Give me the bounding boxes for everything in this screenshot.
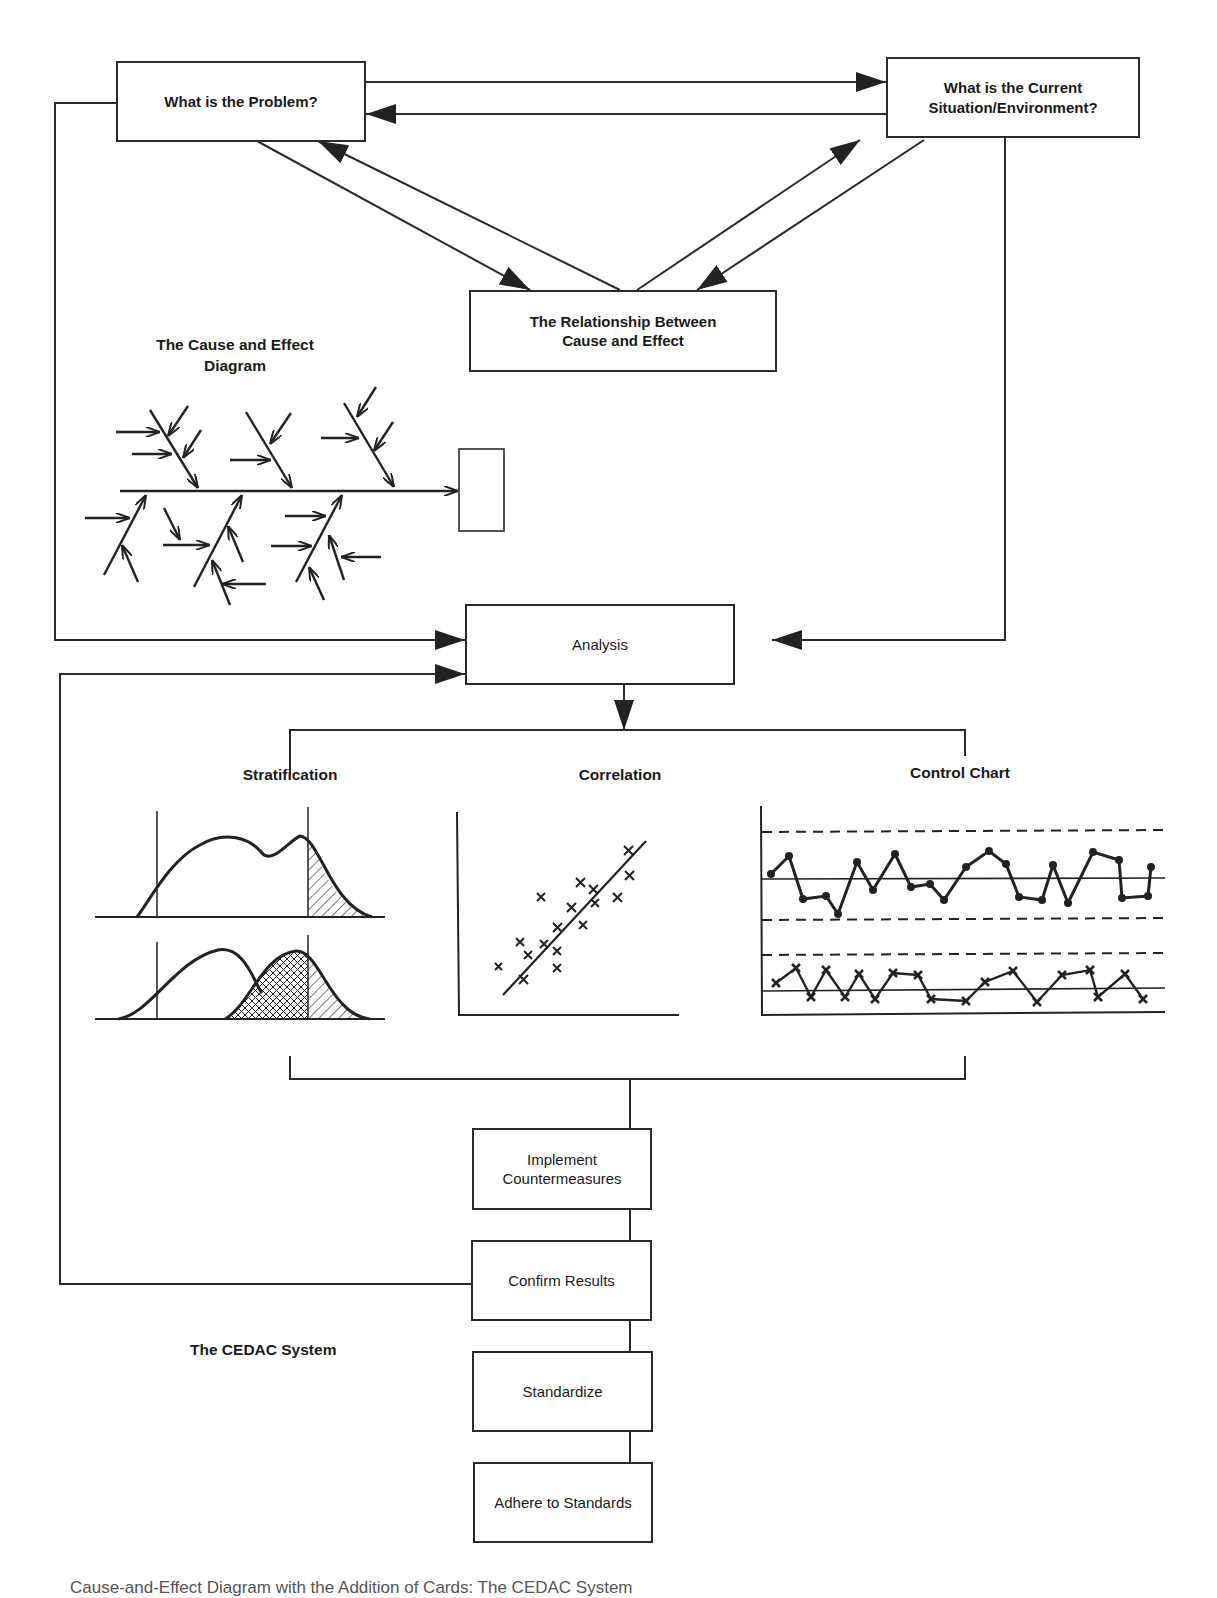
- analysis-text: Analysis: [572, 635, 628, 655]
- correlation-label: Correlation: [530, 765, 710, 786]
- relationship-line2: Cause and Effect: [530, 331, 717, 351]
- current-situation-box: What is the Current Situation/Environmen…: [886, 57, 1140, 138]
- standardize-text: Standardize: [522, 1382, 602, 1402]
- problem-text: What is the Problem?: [164, 92, 317, 112]
- control-chart: [761, 806, 1165, 1015]
- cause-effect-label-line1: The Cause and Effect: [140, 335, 330, 356]
- implement-line1: Implement: [502, 1150, 621, 1170]
- correlation-scatter: [457, 812, 679, 1015]
- current-situation-line2: Situation/Environment?: [928, 98, 1097, 118]
- effect-box: [459, 449, 504, 531]
- adhere-text: Adhere to Standards: [494, 1493, 632, 1513]
- control-chart-label: Control Chart: [870, 763, 1050, 784]
- adhere-to-standards-box: Adhere to Standards: [473, 1462, 653, 1543]
- implement-countermeasures-box: Implement Countermeasures: [472, 1128, 652, 1210]
- confirm-text: Confirm Results: [508, 1271, 615, 1291]
- relationship-line1: The Relationship Between: [530, 312, 717, 332]
- current-situation-line1: What is the Current: [928, 78, 1097, 98]
- control-chart-points: [767, 847, 1155, 918]
- relationship-box: The Relationship Between Cause and Effec…: [469, 290, 777, 372]
- analysis-box: Analysis: [465, 604, 735, 685]
- system-name-label: The CEDAC System: [190, 1340, 390, 1361]
- implement-line2: Countermeasures: [502, 1169, 621, 1189]
- fishbone-diagram: [85, 387, 458, 605]
- cause-effect-diagram-label: The Cause and Effect Diagram: [140, 335, 330, 377]
- problem-box: What is the Problem?: [116, 61, 366, 142]
- stratification-chart: [95, 807, 385, 1019]
- confirm-results-box: Confirm Results: [471, 1240, 652, 1321]
- stratification-label: Stratification: [200, 765, 380, 786]
- cause-effect-label-line2: Diagram: [140, 356, 330, 377]
- standardize-box: Standardize: [472, 1351, 653, 1432]
- figure-caption-cropped: Cause-and-Effect Diagram with the Additi…: [70, 1578, 633, 1598]
